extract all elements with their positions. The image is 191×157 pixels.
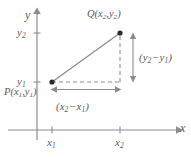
point-q-marker: [117, 30, 122, 35]
y-axis-label: y: [25, 9, 30, 21]
vertical-distance-close: ): [168, 51, 172, 63]
point-q-label-end: ): [117, 8, 121, 19]
dimension-arrows: [51, 33, 137, 93]
y-axis-arrowhead: [33, 8, 41, 15]
rise-arrow-head-bottom: [130, 76, 136, 83]
x-tick-label-x1: x1: [47, 137, 56, 148]
horizontal-distance-label: (x2−x1): [56, 101, 89, 112]
horizontal-distance-open: (x: [56, 100, 65, 112]
tick-group: [34, 33, 121, 134]
point-p-label-end: ): [33, 86, 37, 97]
point-p-label-main: P(x: [4, 86, 19, 97]
y-tick-label-y2-sub: 2: [22, 31, 26, 40]
horizontal-distance-close: ): [85, 100, 89, 112]
x-tick-label-x2: x2: [115, 137, 124, 148]
triangle-group: [52, 33, 120, 82]
point-p-label: P(x1,y1): [4, 87, 37, 98]
diagram-canvas: [0, 0, 191, 157]
x-axis-label: x: [180, 122, 185, 134]
segment-pq: [52, 33, 120, 82]
minus-sign-icon: −: [68, 100, 76, 112]
point-q-label-main: Q(x: [87, 8, 103, 19]
distance-formula-diagram: y x y2 y1 x1 x2 Q(x2,y2) P(x1,y1) (x2−x1…: [0, 0, 191, 157]
rise-arrow-head-top: [130, 33, 136, 40]
y-tick-label-y2: y2: [17, 27, 26, 38]
point-q-label: Q(x2,y2): [87, 9, 121, 20]
run-arrow-head-left: [51, 86, 58, 92]
vertical-distance-label: (y2−y1): [139, 52, 172, 63]
point-p-marker: [49, 79, 54, 84]
axis-group: [8, 8, 183, 141]
point-q-label-mid: ,y: [106, 8, 113, 19]
x-tick-label-x1-sub: 1: [52, 141, 56, 150]
run-arrow-head-right: [115, 86, 122, 92]
minus-sign-icon-vertical: −: [151, 51, 159, 63]
x-tick-label-x2-sub: 2: [120, 141, 124, 150]
vertical-distance-open: (y: [139, 51, 148, 63]
